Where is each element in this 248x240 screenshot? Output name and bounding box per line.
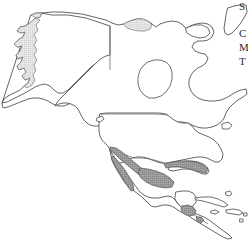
island-lesser-antilles bbox=[240, 219, 243, 222]
map-canvas bbox=[0, 0, 248, 240]
distribution-range-map: S C M T bbox=[0, 0, 248, 240]
island-puerto-rico bbox=[244, 213, 247, 216]
